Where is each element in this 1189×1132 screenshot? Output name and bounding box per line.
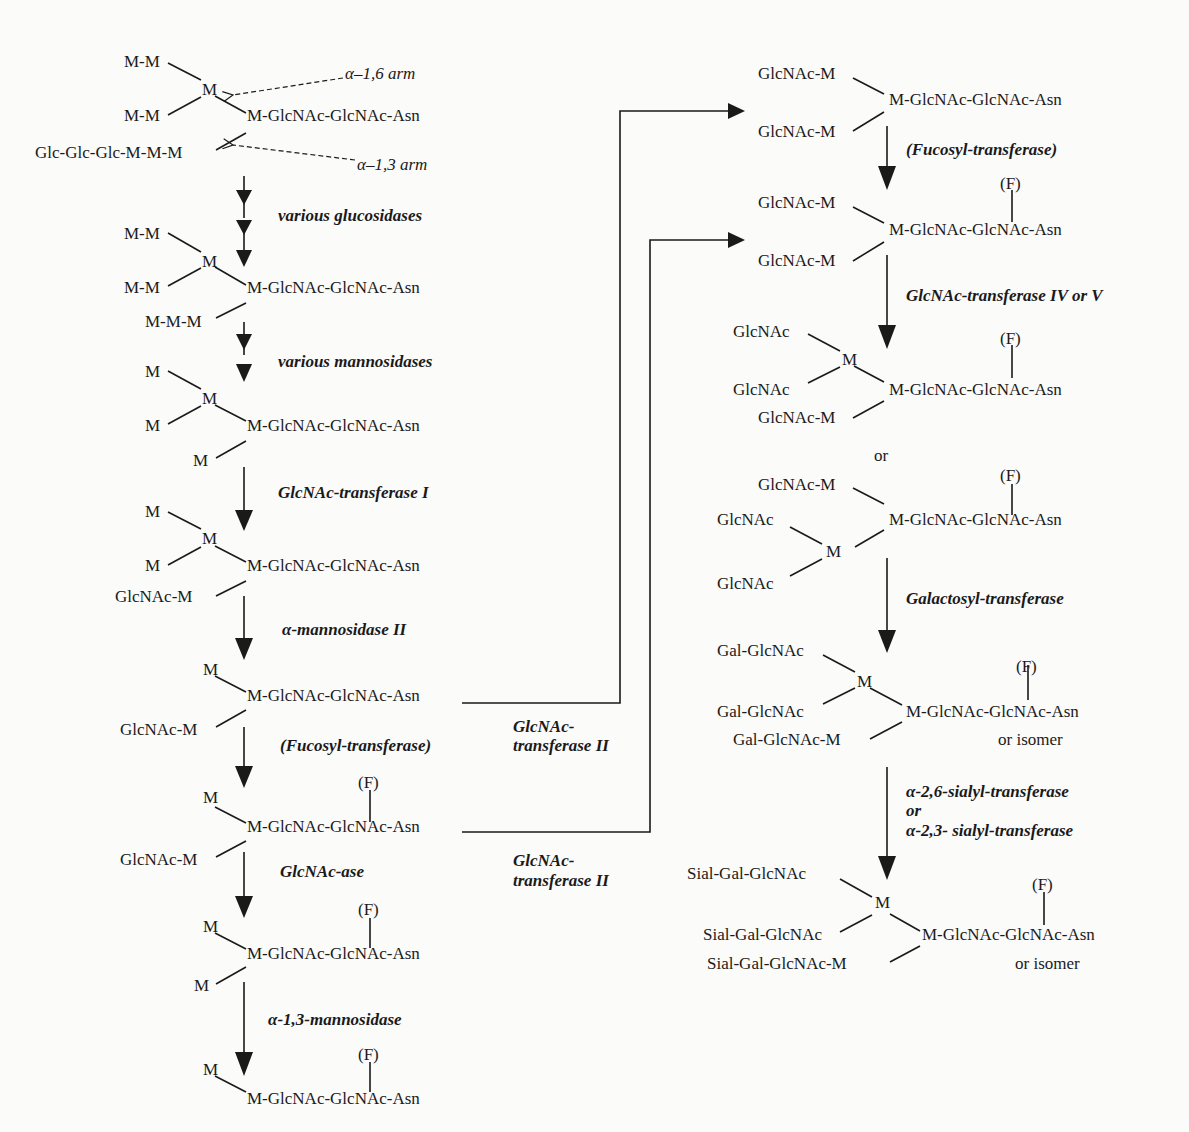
s7-fucose: (F)	[358, 900, 379, 920]
s2-lower-arm: M-M	[124, 278, 160, 298]
r6-branch-mannose: M	[875, 893, 890, 913]
s4-lower-arm: M	[145, 556, 160, 576]
enzyme-fucosyl-transferase-right: (Fucosyl-transferase)	[906, 140, 1057, 160]
r6-core: M-GlcNAc-GlcNAc-Asn	[922, 925, 1095, 945]
s5-upper-arm: M	[203, 660, 218, 680]
enzyme-or: or	[906, 801, 921, 821]
r1-lower-arm: GlcNAc-M	[758, 122, 835, 142]
connector-gnt2-a-line2: transferase II	[513, 736, 609, 756]
s7-alpha13-arm: M	[194, 976, 209, 996]
r4-fucose: (F)	[1000, 466, 1021, 486]
r5-lower-arm: Gal-GlcNAc-M	[733, 730, 841, 750]
r2-upper-arm: GlcNAc-M	[758, 193, 835, 213]
r1-core: M-GlcNAc-GlcNAc-Asn	[889, 90, 1062, 110]
s4-branch-mannose: M	[202, 529, 217, 549]
enzyme-various-glucosidases: various glucosidases	[278, 206, 422, 226]
s8-upper-arm: M	[203, 1060, 218, 1080]
r6-arm-b: Sial-Gal-GlcNAc	[703, 925, 822, 945]
s6-upper-arm: M	[203, 788, 218, 808]
r2-lower-arm: GlcNAc-M	[758, 251, 835, 271]
r1-upper-arm: GlcNAc-M	[758, 64, 835, 84]
enzyme-glcnac-transferase-iv-or-v: GlcNAc-transferase IV or V	[906, 286, 1103, 306]
r6-fucose: (F)	[1032, 875, 1053, 895]
r3-lower-arm: GlcNAc-M	[758, 408, 835, 428]
s3-upper-arm: M	[145, 362, 160, 382]
bond-and-arrow-layer	[0, 0, 1189, 1132]
r5-arm-a: Gal-GlcNAc	[717, 641, 804, 661]
r3-branch-mannose: M	[842, 350, 857, 370]
s2-branch-mannose: M	[202, 252, 217, 272]
enzyme-glcnac-transferase-i: GlcNAc-transferase I	[278, 483, 429, 503]
r3-fucose: (F)	[1000, 329, 1021, 349]
enzyme-alpha-2-3-sialyl-transferase: α-2,3- sialyl-transferase	[906, 821, 1073, 841]
s1-branch-mannose: M	[202, 80, 217, 100]
s1-lower-arm: M-M	[124, 106, 160, 126]
enzyme-alpha-1-3-mannosidase: α-1,3-mannosidase	[268, 1010, 402, 1030]
s3-alpha13-arm: M	[193, 451, 208, 471]
s6-alpha13-arm: GlcNAc-M	[120, 850, 197, 870]
r5-arm-b: Gal-GlcNAc	[717, 702, 804, 722]
connector-gnt2-a-line1: GlcNAc-	[513, 717, 574, 737]
enzyme-glcnac-ase: GlcNAc-ase	[280, 862, 364, 882]
connector-gnt2-b-line2: transferase II	[513, 871, 609, 891]
s4-alpha13-arm: GlcNAc-M	[115, 587, 192, 607]
s1-upper-arm: M-M	[124, 52, 160, 72]
s8-fucose: (F)	[358, 1045, 379, 1065]
r6-lower-arm: Sial-Gal-GlcNAc-M	[707, 954, 847, 974]
s3-branch-mannose: M	[202, 389, 217, 409]
s2-upper-arm: M-M	[124, 224, 160, 244]
r4-arm-b: GlcNAc	[717, 574, 774, 594]
s5-core: M-GlcNAc-GlcNAc-Asn	[247, 686, 420, 706]
alpha13-arm-label: α–1,3 arm	[357, 155, 427, 175]
s4-upper-arm: M	[145, 502, 160, 522]
s5-alpha13-arm: GlcNAc-M	[120, 720, 197, 740]
r4-arm-a: GlcNAc	[717, 510, 774, 530]
r5-branch-mannose: M	[857, 672, 872, 692]
s4-core: M-GlcNAc-GlcNAc-Asn	[247, 556, 420, 576]
r2-fucose: (F)	[1000, 174, 1021, 194]
s3-lower-arm: M	[145, 416, 160, 436]
r6-arm-a: Sial-Gal-GlcNAc	[687, 864, 806, 884]
r4-branch-mannose: M	[826, 542, 841, 562]
s2-alpha13-arm: M-M-M	[145, 312, 202, 332]
r2-core: M-GlcNAc-GlcNAc-Asn	[889, 220, 1062, 240]
connector-gnt2-b-line1: GlcNAc-	[513, 851, 574, 871]
s1-core: M-GlcNAc-GlcNAc-Asn	[247, 106, 420, 126]
s1-alpha13-arm: Glc-Glc-Glc-M-M-M	[35, 143, 182, 163]
enzyme-fucosyl-transferase-left: (Fucosyl-transferase)	[280, 736, 431, 756]
enzyme-alpha-mannosidase-ii: α-mannosidase II	[282, 620, 406, 640]
s2-core: M-GlcNAc-GlcNAc-Asn	[247, 278, 420, 298]
r5-core: M-GlcNAc-GlcNAc-Asn	[906, 702, 1079, 722]
s8-core: M-GlcNAc-GlcNAc-Asn	[247, 1089, 420, 1109]
alpha16-arm-label: α–1,6 arm	[345, 64, 415, 84]
glycan-pathway-diagram: M-M M M-M M-GlcNAc-GlcNAc-Asn Glc-Glc-Gl…	[0, 0, 1189, 1132]
r4-upper-arm: GlcNAc-M	[758, 475, 835, 495]
bond	[168, 63, 201, 80]
r3-arm-b: GlcNAc	[733, 380, 790, 400]
enzyme-galactosyl-transferase: Galactosyl-transferase	[906, 589, 1064, 609]
enzyme-alpha-2-6-sialyl-transferase: α-2,6-sialyl-transferase	[906, 782, 1069, 802]
s3-core: M-GlcNAc-GlcNAc-Asn	[247, 416, 420, 436]
enzyme-various-mannosidases: various mannosidases	[278, 352, 432, 372]
r5-fucose: (F)	[1016, 657, 1037, 677]
s7-core: M-GlcNAc-GlcNAc-Asn	[247, 944, 420, 964]
r5-or-isomer: or isomer	[998, 730, 1063, 750]
r3-arm-a: GlcNAc	[733, 322, 790, 342]
s6-fucose: (F)	[358, 773, 379, 793]
r4-core: M-GlcNAc-GlcNAc-Asn	[889, 510, 1062, 530]
s6-core: M-GlcNAc-GlcNAc-Asn	[247, 817, 420, 837]
r3-core: M-GlcNAc-GlcNAc-Asn	[889, 380, 1062, 400]
s7-upper-arm: M	[203, 917, 218, 937]
or-separator: or	[874, 446, 888, 466]
r6-or-isomer: or isomer	[1015, 954, 1080, 974]
